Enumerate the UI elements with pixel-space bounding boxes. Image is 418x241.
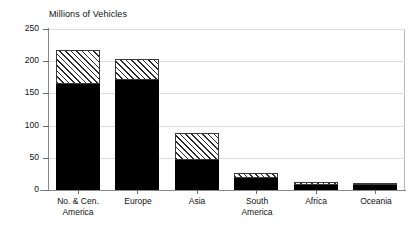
x-axis-line (40, 190, 406, 191)
bar-segment[interactable] (115, 80, 159, 190)
x-axis-tick (197, 190, 198, 194)
y-axis-tick-label: 0 (34, 185, 39, 194)
gridline (49, 29, 405, 30)
y-axis-tick-label: 50 (30, 153, 39, 162)
y-axis-tick (43, 126, 49, 127)
bar-segment[interactable] (56, 84, 100, 190)
bar-stack[interactable] (56, 50, 100, 190)
x-axis-category-label: Asia (167, 196, 227, 207)
x-axis-tick (78, 190, 79, 194)
y-axis-tick-label: 250 (25, 24, 39, 33)
bar-segment[interactable] (175, 133, 219, 160)
bar-stack[interactable] (115, 59, 159, 190)
x-axis-tick (256, 190, 257, 194)
y-axis-line (48, 28, 49, 191)
y-axis-tick (43, 158, 49, 159)
x-axis-category-label: No. & Cen. America (48, 196, 108, 217)
bar-segment[interactable] (353, 183, 397, 185)
y-axis-tick (43, 190, 49, 191)
x-axis-category-label: South America (227, 196, 287, 217)
x-axis-tick (375, 190, 376, 194)
bar-stack[interactable] (294, 182, 338, 190)
plot-area (48, 29, 405, 190)
gridline (49, 126, 405, 127)
y-axis-tick-label: 100 (25, 121, 39, 130)
x-axis-tick (137, 190, 138, 194)
bar-stack[interactable] (353, 183, 397, 190)
y-axis-tick-label: 200 (25, 56, 39, 65)
gridline (49, 61, 405, 62)
bar-segment[interactable] (234, 178, 278, 190)
bar-segment[interactable] (56, 50, 100, 84)
bar-stack[interactable] (175, 133, 219, 190)
gridline (49, 158, 405, 159)
gridline (49, 93, 405, 94)
bar-segment[interactable] (115, 59, 159, 80)
x-axis-tick (316, 190, 317, 194)
bar-segment[interactable] (234, 173, 278, 178)
y-axis-tick (43, 29, 49, 30)
bar-segment[interactable] (175, 160, 219, 190)
vehicles-bar-chart: Millions of Vehicles 050100150200250 No.… (0, 0, 418, 241)
x-axis-category-label: Africa (286, 196, 346, 207)
bar-segment[interactable] (294, 182, 338, 185)
bar-stack[interactable] (234, 174, 278, 190)
chart-title: Millions of Vehicles (49, 9, 127, 20)
x-axis-category-label: Oceania (346, 196, 406, 207)
x-axis-category-label: Europe (108, 196, 168, 207)
y-axis-tick (43, 61, 49, 62)
y-axis-tick (43, 93, 49, 94)
y-axis-tick-label: 150 (25, 88, 39, 97)
